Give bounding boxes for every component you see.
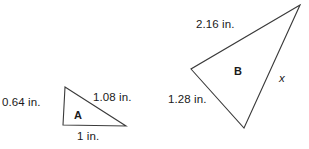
triangles-drawing: [0, 0, 309, 149]
triangle-a-left-side-label: 0.64 in.: [2, 97, 41, 109]
similar-triangles-figure: 0.64 in. 1.08 in. 1 in. A 2.16 in. 1.28 …: [0, 0, 309, 149]
triangle-b-top-side-label: 2.16 in.: [196, 19, 235, 31]
triangle-b-left-side-label: 1.28 in.: [168, 94, 207, 106]
triangle-a-base-label: 1 in.: [77, 131, 99, 143]
triangle-b-name-label: B: [234, 66, 242, 77]
triangle-a-hypotenuse-label: 1.08 in.: [93, 92, 132, 104]
triangle-a-name-label: A: [74, 110, 82, 121]
triangle-b-unknown-side-label: x: [279, 73, 285, 85]
